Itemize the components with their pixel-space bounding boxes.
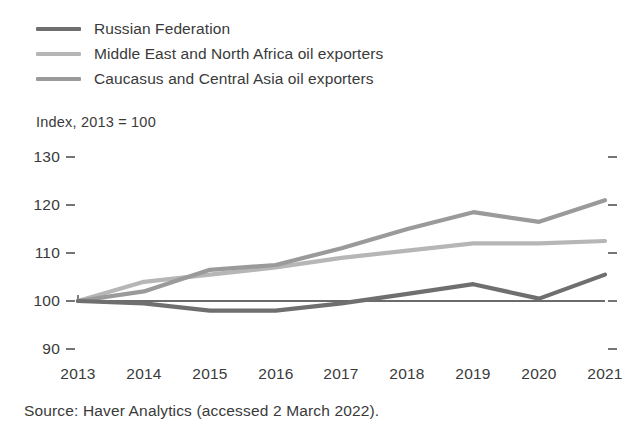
chart-figure: Russian Federation Middle East and North…	[0, 0, 631, 442]
plot-area: 130 120 110 100 90 2013 2014 2015 2016 2…	[0, 0, 631, 442]
y-axis-ticks-right	[608, 157, 617, 349]
source-note: Source: Haver Analytics (accessed 2 Marc…	[24, 402, 379, 420]
series-line-caucasus-central-asia	[78, 200, 605, 301]
y-axis-ticks-left	[66, 157, 75, 349]
chart-svg	[0, 0, 631, 442]
